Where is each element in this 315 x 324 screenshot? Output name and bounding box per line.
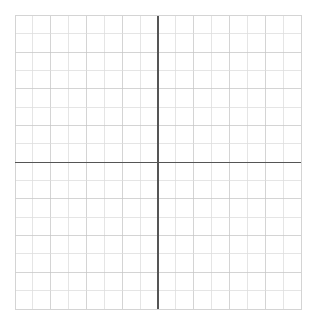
coordinate-grid-canvas	[0, 0, 315, 324]
cartesian-plane-figure	[0, 0, 315, 324]
